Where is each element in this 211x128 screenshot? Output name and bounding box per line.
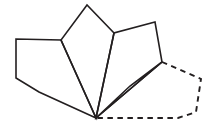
pentagon-tiling-figure xyxy=(0,0,211,128)
pentagon-diagram-canvas xyxy=(0,0,211,128)
